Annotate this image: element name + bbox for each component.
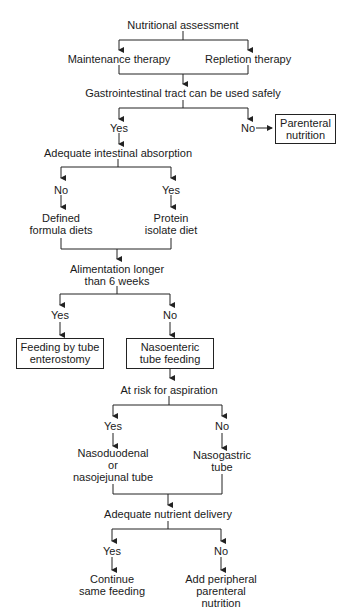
label-abs-no: No bbox=[48, 184, 74, 196]
node-text: isolate diet bbox=[136, 224, 206, 236]
label-asp-yes: Yes bbox=[98, 420, 128, 432]
node-text: Nasoduodenal bbox=[68, 447, 158, 459]
label-del-no: No bbox=[208, 545, 234, 557]
node-text: enterostomy bbox=[17, 353, 103, 365]
node-text: tube bbox=[187, 461, 257, 473]
node-text: Nasoenteric bbox=[127, 341, 213, 353]
node-maintenance-therapy: Maintenance therapy bbox=[63, 53, 175, 65]
node-text: Defined bbox=[21, 212, 101, 224]
node-text: same feeding bbox=[72, 585, 152, 597]
node-nutritional-assessment: Nutritional assessment bbox=[123, 19, 243, 31]
node-text: Feeding by tube bbox=[17, 341, 103, 353]
node-defined-formula: Defined formula diets bbox=[21, 212, 101, 236]
node-nasogastric-tube: Nasogastric tube bbox=[187, 449, 257, 473]
node-parenteral-nutrition: Parenteral nutrition bbox=[275, 114, 336, 144]
node-alimentation: Alimentation longer than 6 weeks bbox=[67, 263, 167, 287]
node-gi-tract-safe: Gastrointestinal tract can be used safel… bbox=[83, 87, 283, 99]
node-text: tube feeding bbox=[127, 353, 213, 365]
node-text: Protein bbox=[136, 212, 206, 224]
label-alim-yes: Yes bbox=[45, 309, 75, 321]
node-add-peripheral-parenteral: Add peripheral parenteral nutrition bbox=[181, 573, 261, 609]
node-text: Nasogastric bbox=[187, 449, 257, 461]
node-text: or bbox=[68, 459, 158, 471]
label-asp-no: No bbox=[209, 420, 235, 432]
node-text: parenteral bbox=[181, 585, 261, 597]
node-adequate-absorption: Adequate intestinal absorption bbox=[43, 147, 193, 159]
label-gi-no: No bbox=[236, 122, 260, 134]
node-text: formula diets bbox=[21, 224, 101, 236]
label-abs-yes: Yes bbox=[155, 184, 187, 196]
node-protein-isolate: Protein isolate diet bbox=[136, 212, 206, 236]
label-gi-yes: Yes bbox=[104, 122, 134, 134]
node-text: Continue bbox=[72, 573, 152, 585]
node-repletion-therapy: Repletion therapy bbox=[205, 53, 291, 65]
node-aspiration-risk: At risk for aspiration bbox=[114, 384, 224, 396]
node-nasoduodenal-tube: Nasoduodenal or nasojejunal tube bbox=[68, 447, 158, 483]
node-text: Add peripheral bbox=[181, 573, 261, 585]
node-continue-same-feeding: Continue same feeding bbox=[72, 573, 152, 597]
node-text: Parenteral bbox=[276, 117, 335, 129]
node-text: nutrition bbox=[276, 129, 335, 141]
node-text: than 6 weeks bbox=[67, 275, 167, 287]
node-text: Alimentation longer bbox=[67, 263, 167, 275]
label-del-yes: Yes bbox=[97, 545, 127, 557]
node-feeding-by-tube-enterostomy: Feeding by tube enterostomy bbox=[16, 338, 104, 369]
node-nasoenteric-tube-feeding: Nasoenteric tube feeding bbox=[126, 338, 214, 369]
node-text: nasojejunal tube bbox=[68, 471, 158, 483]
label-alim-no: No bbox=[157, 309, 183, 321]
node-adequate-delivery: Adequate nutrient delivery bbox=[103, 508, 233, 520]
node-text: nutrition bbox=[181, 597, 261, 609]
